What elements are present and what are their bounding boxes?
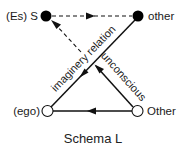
edge-other-to-ego	[51, 20, 135, 107]
diagram-title: Schema L	[64, 131, 123, 146]
arrowhead-up-left-icon	[51, 20, 61, 29]
arrowhead-up-left-icon	[95, 65, 105, 74]
edge-label-unconscious: unconscious	[99, 50, 149, 104]
arrowhead-left-icon	[87, 108, 96, 115]
node-label-other-capital: Other	[147, 105, 176, 117]
node-label-ego: (ego)	[13, 105, 40, 117]
edge-other-to-ego-horizontal	[53, 108, 132, 115]
node-ego-hollow	[42, 106, 53, 117]
node-other-hollow	[132, 106, 143, 117]
edge-center-to-s	[51, 20, 81, 52]
node-label-s: (Es) S	[6, 10, 38, 22]
node-s-filled	[41, 11, 52, 22]
edge-s-to-other	[52, 13, 132, 20]
node-other-filled	[133, 11, 144, 22]
arrowhead-right-icon	[86, 13, 95, 20]
node-label-other: other	[148, 10, 174, 22]
schema-l-diagram: (Es) S other (ego) Other imaginery relat…	[0, 0, 187, 154]
